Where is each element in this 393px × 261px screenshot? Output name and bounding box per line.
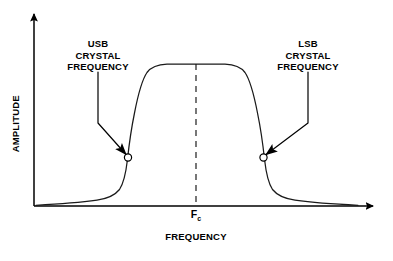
usb-crystal-frequency-label: USB CRYSTAL FREQUENCY: [52, 38, 144, 73]
lsb-leader-line: [266, 72, 309, 155]
center-frequency-label: Fc: [166, 209, 226, 221]
y-axis-label: AMPLITUDE: [10, 84, 22, 164]
filter-response-curve: [36, 64, 358, 205]
x-axis-label: FREQUENCY: [146, 231, 246, 243]
center-frequency-subscript: c: [197, 215, 201, 222]
lsb-crystal-frequency-label: LSB CRYSTAL FREQUENCY: [262, 38, 354, 73]
filter-response-figure: USB CRYSTAL FREQUENCY LSB CRYSTAL FREQUE…: [0, 0, 393, 261]
usb-crystal-frequency-marker: [124, 154, 131, 161]
usb-leader-line: [98, 72, 127, 155]
lsb-crystal-frequency-marker: [260, 154, 267, 161]
